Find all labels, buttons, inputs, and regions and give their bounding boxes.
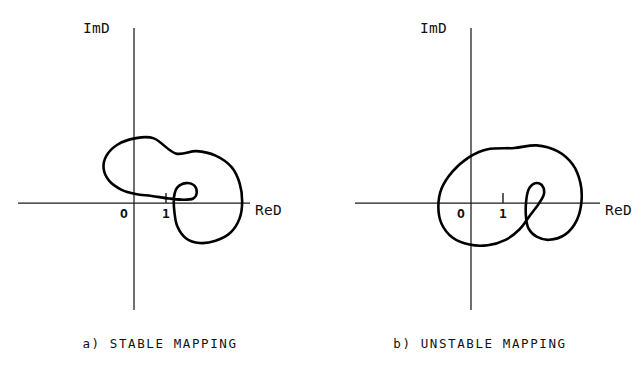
caption-unstable-mapping: b) UNSTABLE MAPPING	[320, 336, 640, 351]
unit-point-label: 1	[162, 206, 170, 221]
imaginary-axis-label: ImD	[83, 20, 110, 36]
imaginary-axis-label: ImD	[420, 20, 447, 36]
plot-stable-mapping: ImD ReD O 1	[0, 0, 320, 330]
caption-stable-mapping: a) STABLE MAPPING	[0, 336, 320, 351]
real-axis-label: ReD	[255, 202, 282, 218]
real-axis-label: ReD	[605, 202, 632, 218]
origin-label: O	[120, 206, 128, 221]
mapping-contour-stable	[104, 137, 243, 243]
panel-stable-mapping: ImD ReD O 1 a) STABLE MAPPING	[0, 0, 320, 386]
nyquist-mapping-figure: ImD ReD O 1 a) STABLE MAPPING ImD ReD O …	[0, 0, 641, 386]
mapping-contour-unstable	[438, 145, 581, 245]
panel-unstable-mapping: ImD ReD O 1 b) UNSTABLE MAPPING	[320, 0, 640, 386]
origin-label: O	[457, 206, 465, 221]
unit-point-label: 1	[499, 206, 507, 221]
plot-unstable-mapping: ImD ReD O 1	[320, 0, 640, 330]
